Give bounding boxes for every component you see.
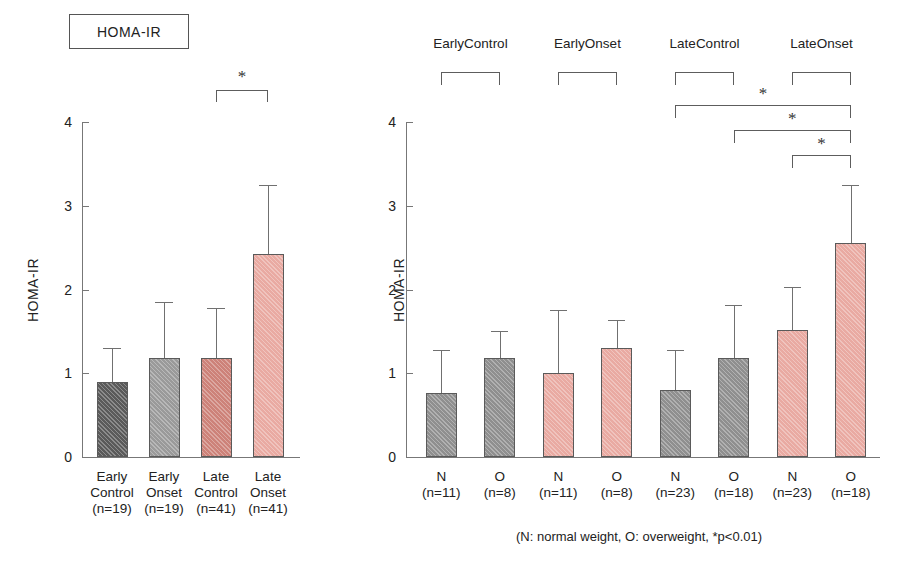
panel-left-y-axis-label: HOMA-IR xyxy=(25,248,41,332)
error-bar-cap xyxy=(207,308,224,309)
error-bar-stem xyxy=(112,348,113,382)
category-sample-size: (n=41) xyxy=(235,501,301,517)
error-bar-cap xyxy=(103,348,120,349)
bracket-left-leg xyxy=(558,72,559,85)
bracket-right-leg xyxy=(267,90,268,102)
panel-left-plot-area: 01234EarlyControl(n=19)EarlyOnset(n=19)L… xyxy=(82,122,300,457)
x-axis-category-label: O(n=8) xyxy=(469,469,531,501)
error-bar-stem xyxy=(851,185,852,244)
category-sample-size: (n=18) xyxy=(820,485,882,501)
y-axis-tick-label: 2 xyxy=(372,283,396,297)
y-axis-tick xyxy=(406,206,413,207)
bracket-right-leg xyxy=(733,72,734,85)
figure-root: HOMA-IR HOMA-IR 01234EarlyControl(n=19)E… xyxy=(0,0,898,566)
y-axis-tick-label: 2 xyxy=(48,283,72,297)
bracket-crossbar xyxy=(558,72,617,73)
x-axis-category-label: O(n=18) xyxy=(820,469,882,501)
group-label: EarlyControl xyxy=(426,36,516,52)
error-bar-cap xyxy=(842,185,859,186)
error-bar-cap xyxy=(155,302,172,303)
y-axis-tick xyxy=(406,373,413,374)
y-axis-tick xyxy=(406,290,413,291)
x-axis-category-label: N(n=23) xyxy=(644,469,706,501)
group-label: LateControl xyxy=(660,36,750,52)
error-bar-cap xyxy=(491,331,508,332)
group-bracket xyxy=(441,72,500,85)
x-axis-category-label: O(n=18) xyxy=(703,469,765,501)
error-bar-stem xyxy=(558,310,559,373)
x-axis-category-label: N(n=23) xyxy=(761,469,823,501)
error-bar-cap xyxy=(784,287,801,288)
x-axis-line xyxy=(82,457,300,458)
bracket-left-leg xyxy=(675,105,676,118)
error-bar-stem xyxy=(617,320,618,348)
bracket-crossbar xyxy=(792,72,851,73)
error-bar-stem xyxy=(216,308,217,358)
error-bar-stem xyxy=(441,350,442,393)
category-sample-size: (n=23) xyxy=(644,485,706,501)
y-axis-tick xyxy=(406,122,413,123)
y-axis-tick xyxy=(82,290,89,291)
bar xyxy=(201,358,232,457)
significance-asterisk: * xyxy=(734,110,851,127)
category-sample-size: (n=18) xyxy=(703,485,765,501)
category-weight-code: O xyxy=(728,469,739,484)
category-sample-size: (n=11) xyxy=(410,485,472,501)
category-line-1: Late xyxy=(203,469,229,484)
category-weight-code: N xyxy=(787,469,797,484)
group-label-line-2: Onset xyxy=(817,36,853,51)
category-sample-size: (n=23) xyxy=(761,485,823,501)
x-axis-category-label: N(n=11) xyxy=(410,469,472,501)
x-axis-category-label: N(n=11) xyxy=(527,469,589,501)
y-axis-tick-label: 0 xyxy=(372,450,396,464)
y-axis-tick-label: 4 xyxy=(48,115,72,129)
figure-footnote: (N: normal weight, O: overweight, *p<0.0… xyxy=(516,529,762,544)
significance-asterisk: * xyxy=(216,68,268,85)
significance-asterisk: * xyxy=(675,85,851,102)
category-weight-code: O xyxy=(494,469,505,484)
bar xyxy=(835,243,866,457)
group-bracket xyxy=(792,72,851,85)
y-axis-tick xyxy=(82,122,89,123)
group-label-line-1: Early xyxy=(433,36,464,51)
category-line-1: Early xyxy=(97,469,128,484)
error-bar-cap xyxy=(433,350,450,351)
group-label-line-2: Control xyxy=(696,36,740,51)
group-label-line-2: Control xyxy=(464,36,508,51)
category-weight-code: N xyxy=(436,469,446,484)
bar xyxy=(484,358,515,457)
group-label: LateOnset xyxy=(777,36,867,52)
category-sample-size: (n=11) xyxy=(527,485,589,501)
panel-left: HOMA-IR 01234EarlyControl(n=19)EarlyOnse… xyxy=(0,0,360,566)
bar xyxy=(97,382,128,457)
bracket-left-leg xyxy=(216,90,217,102)
error-bar-stem xyxy=(164,302,165,358)
group-label: EarlyOnset xyxy=(543,36,633,52)
bracket-left-leg xyxy=(441,72,442,85)
group-label-line-1: Late xyxy=(670,36,696,51)
y-axis-tick-label: 4 xyxy=(372,115,396,129)
bar xyxy=(149,358,180,457)
x-axis-category-label: LateOnset(n=41) xyxy=(235,469,301,517)
x-axis-category-label: O(n=8) xyxy=(586,469,648,501)
error-bar-stem xyxy=(675,350,676,390)
y-axis-tick-label: 3 xyxy=(48,199,72,213)
bracket-left-leg xyxy=(675,72,676,85)
bar xyxy=(543,373,574,457)
bracket-right-leg xyxy=(499,72,500,85)
bracket-crossbar xyxy=(216,90,268,91)
bar xyxy=(601,348,632,457)
bracket-right-leg xyxy=(616,72,617,85)
error-bar-cap xyxy=(725,305,742,306)
error-bar-stem xyxy=(734,305,735,359)
bracket-crossbar xyxy=(734,130,851,131)
group-bracket xyxy=(675,72,734,85)
bar xyxy=(660,390,691,457)
bracket-left-leg xyxy=(792,155,793,168)
category-weight-code: O xyxy=(845,469,856,484)
bracket-left-leg xyxy=(734,130,735,143)
bracket-right-leg xyxy=(850,72,851,85)
group-bracket xyxy=(558,72,617,85)
category-sample-size: (n=8) xyxy=(586,485,648,501)
group-label-line-1: Late xyxy=(790,36,816,51)
